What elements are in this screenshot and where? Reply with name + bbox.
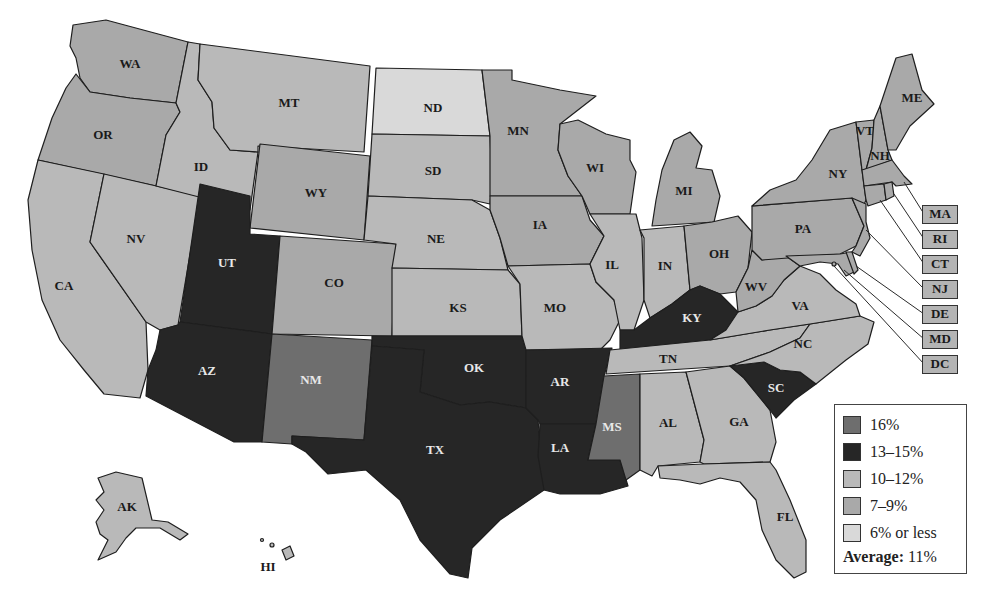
- label-az: AZ: [198, 363, 216, 378]
- label-pa: PA: [795, 221, 812, 236]
- label-ga: GA: [729, 414, 749, 429]
- label-nm: NM: [300, 372, 322, 387]
- label-tn: TN: [659, 351, 678, 366]
- callout-md: MD: [922, 330, 958, 349]
- label-mn: MN: [507, 123, 529, 138]
- callout-nj: NJ: [922, 280, 958, 299]
- label-ca: CA: [55, 278, 74, 293]
- label-oh: OH: [709, 246, 729, 261]
- label-nh: NH: [870, 148, 890, 163]
- legend-label: 7–9%: [870, 497, 907, 515]
- legend-item: 10–12%: [843, 465, 966, 492]
- label-wv: WV: [745, 279, 768, 294]
- label-ms: MS: [602, 419, 622, 434]
- callout-ct: CT: [922, 255, 958, 274]
- label-vt: VT: [856, 123, 874, 138]
- label-sd: SD: [425, 163, 442, 178]
- state-az: [146, 322, 272, 442]
- state-hi: [282, 546, 294, 560]
- legend-swatch: [843, 497, 861, 515]
- legend-label: 13–15%: [870, 443, 923, 461]
- label-tx: TX: [426, 442, 445, 457]
- label-la: LA: [551, 440, 570, 455]
- callout-dc: DC: [922, 355, 958, 374]
- label-ny: NY: [829, 166, 848, 181]
- label-wy: WY: [305, 185, 328, 200]
- label-me: ME: [902, 90, 923, 105]
- label-ut: UT: [218, 255, 236, 270]
- legend-label: 16%: [870, 416, 899, 434]
- legend-item: 6% or less: [843, 519, 966, 546]
- state-nm: [262, 334, 372, 444]
- label-wa: WA: [120, 56, 142, 71]
- label-sc: SC: [768, 380, 785, 395]
- legend-swatch: [843, 443, 861, 461]
- label-nd: ND: [424, 100, 443, 115]
- label-al: AL: [659, 415, 677, 430]
- label-mi: MI: [675, 183, 692, 198]
- label-ok: OK: [464, 360, 485, 375]
- legend-average: Average: 11%: [843, 548, 966, 566]
- label-ak: AK: [117, 499, 137, 514]
- state-ct: [864, 184, 886, 206]
- average-value: 11%: [908, 548, 937, 565]
- label-nv: NV: [127, 231, 146, 246]
- label-or: OR: [93, 127, 113, 142]
- label-hi: HI: [260, 559, 275, 574]
- state-ak: [96, 472, 188, 560]
- state-ri: [884, 182, 894, 200]
- average-label: Average:: [843, 548, 904, 565]
- label-il: IL: [605, 257, 619, 272]
- label-ar: AR: [551, 374, 570, 389]
- label-mo: MO: [544, 300, 566, 315]
- legend-swatch: [843, 416, 861, 434]
- callout-ma: MA: [922, 205, 958, 224]
- label-co: CO: [324, 275, 344, 290]
- legend-label: 10–12%: [870, 470, 923, 488]
- state-mi: [652, 132, 720, 226]
- label-ky: KY: [682, 310, 702, 325]
- legend-item: 7–9%: [843, 492, 966, 519]
- label-mt: MT: [279, 95, 300, 110]
- map-legend: 16% 13–15% 10–12% 7–9% 6% or less Averag…: [834, 404, 967, 574]
- label-nc: NC: [794, 336, 813, 351]
- label-va: VA: [791, 298, 809, 313]
- callout-de: DE: [922, 305, 958, 324]
- label-ks: KS: [449, 300, 466, 315]
- label-id: ID: [194, 159, 208, 174]
- label-in: IN: [658, 258, 673, 273]
- state-hi-islet: [270, 543, 274, 547]
- legend-label: 6% or less: [870, 524, 937, 542]
- legend-item: 16%: [843, 411, 966, 438]
- state-hi-islet: [261, 539, 264, 542]
- callout-ri: RI: [922, 230, 958, 249]
- label-fl: FL: [777, 509, 794, 524]
- label-ne: NE: [427, 231, 445, 246]
- label-ia: IA: [533, 217, 548, 232]
- label-wi: WI: [586, 160, 604, 175]
- legend-swatch: [843, 470, 861, 488]
- legend-item: 13–15%: [843, 438, 966, 465]
- state-dc: [832, 262, 836, 266]
- legend-swatch: [843, 524, 861, 542]
